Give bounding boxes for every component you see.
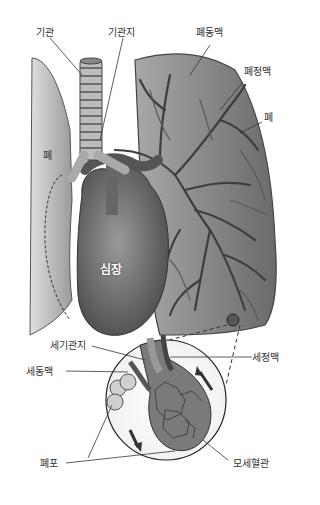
- label-bronchus: 기관지: [108, 27, 135, 39]
- label-lung-right: 폐: [264, 112, 273, 124]
- label-capillary: 모세혈관: [233, 458, 269, 470]
- heart: [77, 167, 168, 335]
- detail-marker: [227, 314, 239, 326]
- lung-left: [30, 58, 72, 335]
- label-venule: 세정맥: [252, 352, 279, 364]
- label-pulmonary-vein: 폐정맥: [244, 66, 271, 78]
- label-heart: 심장: [100, 260, 122, 277]
- label-arteriole: 세동맥: [26, 366, 53, 378]
- label-lung-left: 폐: [43, 150, 52, 162]
- label-trachea: 기관: [36, 27, 54, 39]
- label-pulmonary-artery: 폐동맥: [196, 27, 223, 39]
- label-bronchiole: 세기관지: [50, 340, 86, 352]
- label-alveolus: 폐포: [40, 458, 58, 470]
